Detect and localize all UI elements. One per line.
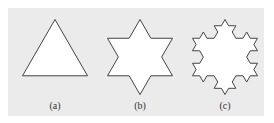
koch-iteration-1-shape bbox=[108, 20, 173, 95]
koch-iteration-2-shape bbox=[193, 20, 258, 95]
label-b: (b) bbox=[134, 100, 146, 111]
label-c: (c) bbox=[219, 100, 230, 111]
label-a: (a) bbox=[49, 100, 60, 111]
koch-iteration-0-shape bbox=[23, 20, 88, 76]
